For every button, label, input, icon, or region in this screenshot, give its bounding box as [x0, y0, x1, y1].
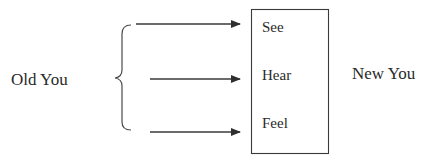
box-item-hear: Hear	[262, 68, 291, 83]
new-you-label: New You	[352, 65, 415, 82]
box-item-feel: Feel	[262, 116, 288, 131]
box-item-see: See	[262, 20, 284, 35]
curly-brace-icon	[115, 25, 131, 130]
old-you-label: Old You	[11, 71, 68, 88]
